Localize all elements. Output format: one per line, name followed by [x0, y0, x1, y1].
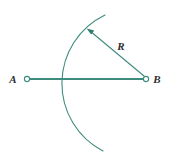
point-a-marker: [24, 76, 29, 81]
arc-path: [62, 15, 105, 151]
point-b-label: B: [152, 73, 160, 85]
figure-canvas: A B R: [0, 0, 172, 161]
radius-line: [90, 31, 144, 76]
radius-label: R: [116, 40, 124, 52]
arc-construction-figure: A B R: [0, 0, 172, 161]
point-b-marker: [143, 76, 148, 81]
point-a-label: A: [8, 73, 16, 85]
